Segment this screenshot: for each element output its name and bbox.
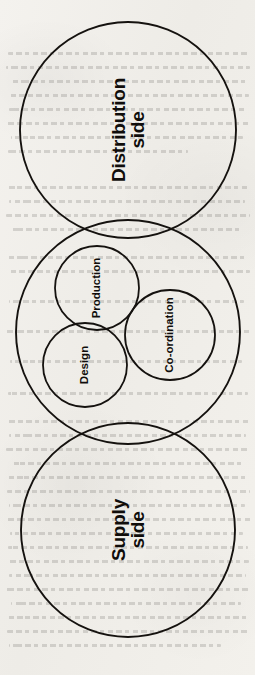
diagram-page: Distribution sideSupply sideProductionDe… (0, 0, 255, 675)
venn-circle-co-ordination (125, 290, 215, 380)
venn-circle-design (43, 323, 127, 407)
venn-circle-production (55, 246, 139, 330)
venn-circle-supply-side (21, 423, 235, 637)
venn-diagram-figure (0, 0, 255, 675)
venn-circle-middle-ring (16, 220, 240, 444)
venn-circle-group (16, 22, 240, 637)
venn-circle-distribution-side (20, 22, 236, 238)
